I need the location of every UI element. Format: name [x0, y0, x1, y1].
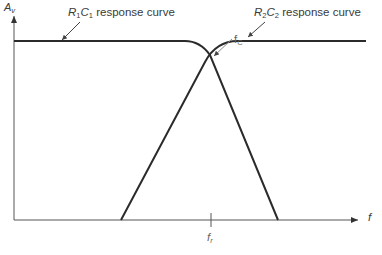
r1c1-response-curve [14, 41, 278, 220]
fc-label: fC [234, 33, 243, 47]
fr-sub: r [210, 236, 213, 245]
y-label-sub: v [11, 6, 15, 15]
r1c1-suffix: response curve [93, 6, 175, 18]
r2c2-suffix: response curve [279, 6, 361, 18]
r1c1-label: R1C1 response curve [68, 6, 175, 20]
x-label-main: f [368, 211, 371, 223]
r1c1-pointer-arrow [62, 22, 80, 40]
r2c2-label: R2C2 response curve [254, 6, 361, 20]
response-diagram [0, 0, 382, 255]
fr-label: fr [207, 231, 213, 245]
fc-sub: C [237, 38, 242, 47]
r2c2-response-curve [121, 41, 366, 220]
c1-symbol: C [80, 6, 88, 18]
r2c2-pointer-arrow [248, 22, 265, 37]
x-axis-label: f [368, 211, 371, 223]
y-axis-label: Av [4, 1, 15, 15]
c2-symbol: C [266, 6, 274, 18]
